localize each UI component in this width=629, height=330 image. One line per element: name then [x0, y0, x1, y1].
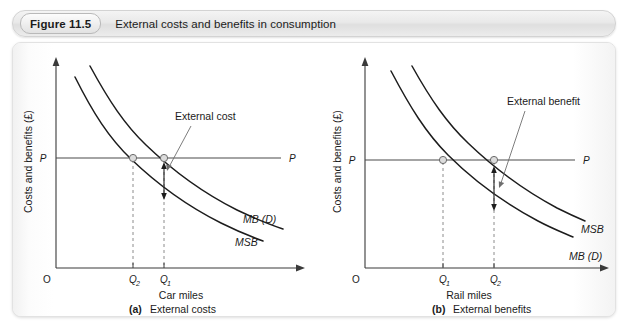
chart-b-gap-arrowhead-down — [491, 204, 497, 211]
chart-a-caption-text: External costs — [150, 303, 216, 315]
chart-b-xtick-label-q2-sub: 2 — [496, 280, 501, 287]
chart-b-caption-label: (b) — [432, 303, 445, 315]
chart-b-annotation-leader-arrowhead — [499, 181, 504, 188]
chart-b-y-axis-arrowhead — [362, 57, 369, 66]
chart-b-x-axis-label: Rail miles — [446, 289, 492, 301]
chart-b-curve-label-msb: MSB — [581, 223, 604, 235]
chart-a-curve-label-mb-d: MB (D) — [243, 213, 276, 225]
chart-a-price-label-left: P — [40, 153, 47, 164]
chart-b-y-axis-label: Costs and benefits (£) — [331, 110, 343, 213]
chart-b-curve-label-mb-d: MB (D) — [569, 250, 602, 262]
figure-number-badge: Figure 11.5 — [20, 13, 101, 34]
chart-a-external-costs: Costs and benefits (£) O P P MB (D) MSB — [22, 57, 305, 315]
chart-a-price-label-right: P — [289, 153, 296, 164]
chart-b-node-q2 — [490, 156, 497, 163]
chart-b-xtick-label-q1-sub: 1 — [446, 280, 450, 287]
chart-a-xtick-label-q2-sub: 2 — [135, 280, 140, 287]
chart-a-x-axis-arrowhead — [296, 265, 305, 272]
chart-a-node-q2 — [129, 154, 136, 161]
chart-a-xtick-label-q1-sub: 1 — [167, 280, 171, 287]
chart-b-annotation-external-benefit: External benefit — [507, 95, 580, 107]
chart-a-caption-label: (a) — [129, 303, 142, 315]
figure-container: Figure 11.5 External costs and benefits … — [0, 0, 629, 330]
figure-header: Figure 11.5 External costs and benefits … — [12, 10, 616, 37]
chart-b-x-axis-arrowhead — [600, 265, 609, 272]
figure-plots-svg: Costs and benefits (£) O P P MB (D) MSB — [13, 43, 615, 316]
figure-title: External costs and benefits in consumpti… — [115, 18, 336, 30]
chart-b-annotation-leader — [501, 111, 525, 183]
chart-b-caption-text: External benefits — [453, 303, 531, 315]
chart-b-price-label-left: P — [349, 155, 356, 166]
chart-a-y-axis-label: Costs and benefits (£) — [22, 110, 34, 213]
chart-b-price-label-right: P — [583, 155, 590, 166]
chart-a-x-axis-label: Car miles — [159, 289, 203, 301]
chart-a-origin-label: O — [43, 274, 51, 285]
chart-b-node-q1 — [439, 156, 446, 163]
chart-a-gap-arrowhead-down — [161, 193, 167, 200]
chart-a-node-q1 — [160, 154, 167, 161]
chart-a-annotation-external-cost: External cost — [175, 110, 236, 122]
chart-b-origin-label: O — [352, 274, 360, 285]
figure-panel-inner: Costs and benefits (£) O P P MB (D) MSB — [13, 43, 615, 316]
figure-panel: Costs and benefits (£) O P P MB (D) MSB — [12, 42, 616, 317]
chart-a-annotation-leader — [169, 126, 191, 167]
chart-a-y-axis-arrowhead — [53, 57, 60, 66]
chart-a-curve-label-msb: MSB — [235, 236, 258, 248]
chart-b-external-benefits: Costs and benefits (£) O P P MSB MB (D) — [331, 57, 609, 315]
chart-a-curve-msb — [75, 77, 263, 241]
